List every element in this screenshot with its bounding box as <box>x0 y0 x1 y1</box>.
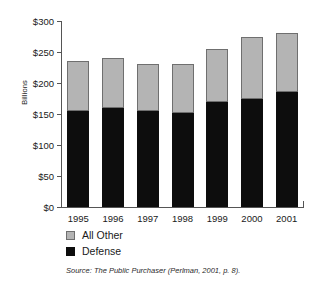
legend-label-defense: Defense <box>82 245 121 257</box>
bar-segment-defense-1995[interactable] <box>67 111 89 207</box>
bar-segment-all-other-1996[interactable] <box>102 58 124 108</box>
y-tick-label: $250 <box>33 47 54 58</box>
gray-swatch-icon <box>66 231 75 240</box>
bar-segment-defense-1999[interactable] <box>206 102 228 207</box>
bar-segment-defense-2000[interactable] <box>241 99 263 208</box>
bar-segment-all-other-2001[interactable] <box>276 33 298 92</box>
bar-segment-defense-1996[interactable] <box>102 108 124 207</box>
bar-segment-all-other-1997[interactable] <box>137 64 159 111</box>
legend-item-all-other[interactable]: All Other <box>66 227 123 243</box>
bar-group-2001[interactable] <box>276 33 298 207</box>
bar-segment-defense-2001[interactable] <box>276 92 298 207</box>
chart-legend: All Other Defense <box>66 227 123 259</box>
bar-segment-all-other-1999[interactable] <box>206 49 228 102</box>
bars-layer <box>61 21 304 208</box>
bar-group-1996[interactable] <box>102 58 124 207</box>
plot-area: $0$50$100$150$200$250$300 19951996199719… <box>61 21 304 208</box>
stacked-bar-chart-figure: Billions $0$50$100$150$200$250$300 19951… <box>0 0 323 284</box>
y-tick-label: $0 <box>43 202 54 213</box>
y-tick-label: $150 <box>33 109 54 120</box>
bar-segment-all-other-2000[interactable] <box>241 37 263 99</box>
bar-group-1997[interactable] <box>137 64 159 207</box>
bar-segment-all-other-1998[interactable] <box>172 64 194 112</box>
black-swatch-icon <box>66 247 75 256</box>
y-tick-label: $50 <box>38 171 54 182</box>
x-tick-label-2001: 2001 <box>267 213 307 224</box>
source-note: Source: The Public Purchaser (Perlman, 2… <box>66 266 240 275</box>
y-tick-label: $100 <box>33 140 54 151</box>
legend-item-defense[interactable]: Defense <box>66 243 123 259</box>
bar-segment-defense-1998[interactable] <box>172 113 194 207</box>
bar-segment-defense-1997[interactable] <box>137 111 159 207</box>
bar-group-1999[interactable] <box>206 49 228 207</box>
y-axis-title: Billions <box>20 58 29 128</box>
y-tick-label: $200 <box>33 78 54 89</box>
bar-group-2000[interactable] <box>241 37 263 208</box>
bar-group-1998[interactable] <box>172 64 194 207</box>
bar-group-1995[interactable] <box>67 61 89 207</box>
legend-label-all-other: All Other <box>82 229 123 241</box>
y-tick-label: $300 <box>33 16 54 27</box>
bar-segment-all-other-1995[interactable] <box>67 61 89 111</box>
